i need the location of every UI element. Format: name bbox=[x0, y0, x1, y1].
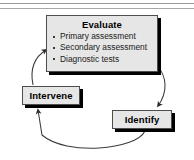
node-evaluate-bullet-list: Primary assessment Secondary assessment … bbox=[51, 31, 153, 65]
clinical-decision-cycle-figure: Evaluate Primary assessment Secondary as… bbox=[0, 0, 194, 160]
node-evaluate[interactable]: Evaluate Primary assessment Secondary as… bbox=[46, 15, 158, 72]
list-item: Secondary assessment bbox=[60, 42, 153, 53]
node-identify-title: Identify bbox=[125, 114, 160, 125]
node-identify[interactable]: Identify bbox=[112, 110, 172, 129]
arrow-intervene-to-evaluate bbox=[32, 50, 46, 85]
node-intervene-title: Intervene bbox=[29, 90, 72, 101]
arrow-evaluate-to-identify bbox=[157, 65, 165, 106]
node-intervene[interactable]: Intervene bbox=[22, 86, 80, 105]
node-evaluate-title: Evaluate bbox=[51, 19, 153, 30]
list-item: Diagnostic tests bbox=[60, 54, 153, 65]
list-item: Primary assessment bbox=[60, 31, 153, 42]
